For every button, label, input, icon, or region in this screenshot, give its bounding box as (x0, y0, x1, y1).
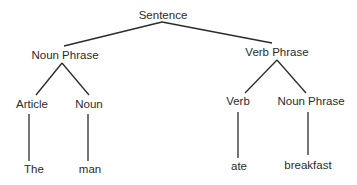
leaf-breakfast: breakfast (284, 159, 332, 171)
edge-verb-phrase-noun-phrase (277, 60, 306, 93)
leaf-ate: ate (231, 160, 247, 172)
node-noun-phrase-subject: Noun Phrase (31, 49, 98, 61)
edge-sentence-noun-phrase (64, 22, 162, 46)
node-noun-phrase-object: Noun Phrase (277, 95, 344, 107)
edge-sentence-verb-phrase (162, 22, 272, 43)
edge-noun-phrase-article (36, 63, 62, 95)
node-sentence: Sentence (139, 9, 188, 21)
edge-verb-phrase-verb (245, 60, 277, 93)
edge-noun-phrase-noun (62, 63, 89, 95)
leaf-man: man (79, 163, 101, 175)
node-verb-phrase: Verb Phrase (245, 46, 308, 58)
node-article: Article (16, 98, 48, 110)
node-verb: Verb (226, 95, 250, 107)
node-noun: Noun (75, 98, 103, 110)
leaf-the: The (24, 163, 44, 175)
parse-tree-diagram: Sentence Noun Phrase Verb Phrase Article… (0, 0, 357, 185)
